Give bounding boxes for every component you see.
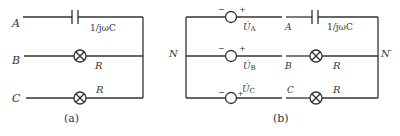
source-b-label: U̇B (243, 60, 256, 72)
node-n-prime-label: N′ (380, 48, 393, 59)
line-c-label: C (287, 85, 294, 95)
resistor-label-b: R (94, 60, 103, 71)
figure-a: A B C 1/jωC R R (a) (11, 10, 143, 125)
voltage-source-icon (226, 93, 237, 104)
line-b-label: B (284, 61, 292, 71)
caption-a: (a) (64, 112, 79, 125)
lamp-icon (310, 92, 322, 104)
capacitor-label-a: 1/jωC (90, 23, 116, 33)
source-b-plus: + (239, 44, 246, 53)
lamp-icon (74, 92, 86, 104)
resistor-label-c2: R (332, 84, 341, 95)
source-a-label: U̇A (243, 21, 257, 33)
node-a-label: A (11, 17, 20, 30)
source-b-minus: − (218, 44, 225, 53)
source-c-minus: − (218, 88, 225, 97)
circuit-figure: A B C 1/jωC R R (a) N (0, 0, 400, 136)
voltage-source-icon (226, 12, 237, 23)
lamp-icon (74, 50, 86, 62)
resistor-label-b2: R (332, 60, 341, 71)
caption-b: (b) (273, 112, 289, 125)
node-b-label: B (11, 54, 20, 67)
figure-b: N − + U̇A A 1/jωC − + U̇B B R (168, 5, 393, 125)
lamp-icon (310, 50, 322, 62)
source-c-label: U̇C (242, 83, 255, 95)
voltage-source-icon (226, 51, 237, 62)
resistor-label-c: R (95, 84, 104, 95)
line-a-label: A (284, 22, 292, 32)
node-c-label: C (12, 92, 21, 105)
capacitor-label-b: 1/jωC (327, 22, 353, 32)
circuit-diagrams: A B C 1/jωC R R (a) N (0, 0, 400, 136)
source-a-minus: − (218, 5, 225, 14)
source-a-plus: + (239, 5, 246, 14)
node-n-label: N (168, 48, 179, 59)
